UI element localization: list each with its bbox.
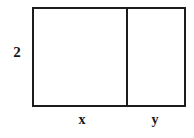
geometry-figure: 2 x y bbox=[0, 0, 194, 138]
height-label: 2 bbox=[6, 45, 28, 60]
left-width-label: x bbox=[70, 113, 94, 127]
right-width-label: y bbox=[143, 113, 167, 127]
outer-rectangle bbox=[32, 7, 186, 107]
vertical-divider-line bbox=[126, 7, 128, 107]
